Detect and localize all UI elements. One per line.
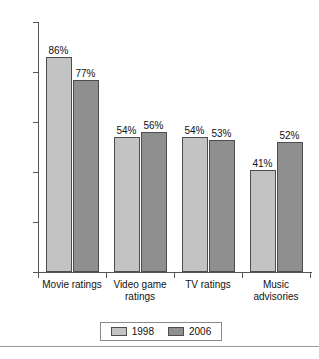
bar-value-label: 53% (211, 129, 231, 139)
x-axis-category-label: Video game ratings (101, 279, 179, 303)
bar-1998-3: 41% (250, 170, 276, 273)
bar-1998-2: 54% (182, 137, 208, 272)
bottom-divider (0, 346, 319, 347)
bar-1998-0: 86% (46, 57, 72, 272)
bar-2006-1: 56% (141, 132, 167, 272)
legend-swatch-2006-icon (168, 327, 184, 336)
bar-value-label: 41% (252, 159, 272, 169)
bar-2006-3: 52% (277, 142, 303, 272)
x-axis-category-label: TV ratings (169, 279, 247, 291)
x-axis-group-tick (106, 273, 107, 278)
bar-value-label: 86% (48, 46, 68, 56)
bar-2006-0: 77% (73, 80, 99, 273)
legend-label-1998: 1998 (132, 327, 154, 337)
bar-value-label: 56% (143, 121, 163, 131)
x-axis-group-tick (174, 273, 175, 278)
chart-legend: 1998 2006 (100, 322, 222, 341)
x-axis-category-label: Music advisories (237, 279, 315, 303)
x-axis-line (38, 272, 312, 273)
plot-area: 86%77%54%56%54%53%41%52% (38, 22, 310, 272)
x-axis-group-tick (242, 273, 243, 278)
legend-entry-1998: 1998 (111, 327, 154, 337)
bar-chart-figure: 020406080100 86%77%54%56%54%53%41%52% Mo… (0, 0, 319, 359)
legend-label-2006: 2006 (189, 327, 211, 337)
x-axis-category-label: Movie ratings (33, 279, 111, 291)
legend-entry-2006: 2006 (168, 327, 211, 337)
legend-swatch-1998-icon (111, 327, 127, 336)
bar-value-label: 77% (75, 69, 95, 79)
bar-2006-2: 53% (209, 140, 235, 273)
bar-value-label: 54% (116, 126, 136, 136)
bar-value-label: 54% (184, 126, 204, 136)
x-axis-group-tick (310, 273, 311, 278)
bar-1998-1: 54% (114, 137, 140, 272)
bar-value-label: 52% (279, 131, 299, 141)
x-axis-group-tick (38, 273, 39, 278)
